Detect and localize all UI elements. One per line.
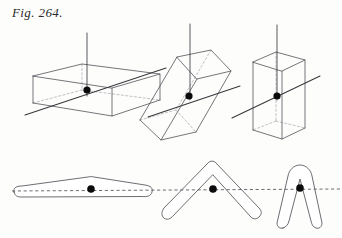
prism-flat-slab — [25, 33, 166, 116]
boomerang-shallow-flat-center-dot — [87, 185, 95, 193]
prism-tilted-elongated-center-dot — [185, 92, 192, 99]
bottom-row-group — [12, 161, 340, 228]
prism-tilted-elongated — [140, 24, 240, 140]
prism-tilted-elongated-hidden-edge — [140, 50, 211, 132]
prism-upright-tall — [232, 25, 320, 139]
boomerang-open-v-center-dot — [209, 185, 217, 193]
prism-flat-slab-center-dot — [83, 86, 90, 93]
prism-flat-slab-visible-edge — [33, 64, 160, 116]
boomerang-shallow-flat-outline — [14, 177, 152, 197]
prism-tilted-elongated-oblique-axis — [148, 86, 240, 117]
figure-drawing-canvas — [0, 0, 342, 238]
prism-flat-slab-hidden-edge — [33, 64, 160, 103]
figure-root: Fig. 264. — [0, 0, 342, 238]
prism-tilted-elongated-visible-edge — [140, 50, 231, 140]
top-row-group — [25, 24, 320, 140]
prism-upright-tall-center-dot — [273, 92, 280, 99]
prism-flat-slab-oblique-axis — [25, 68, 166, 115]
boomerang-narrow-hairpin-center-dot — [296, 184, 304, 192]
boomerang-narrow-hairpin-outline — [277, 165, 322, 228]
